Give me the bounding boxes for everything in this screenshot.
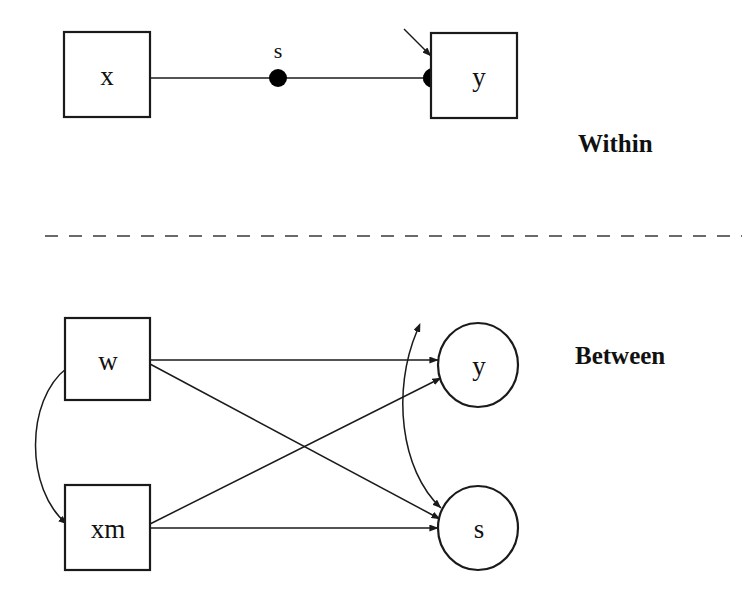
between-covariance-y-s (403, 331, 441, 508)
between-section-label: Between (575, 342, 665, 369)
between-node-s[interactable]: s (438, 486, 518, 570)
diagram-canvas: x s y Within (0, 0, 751, 596)
between-section: w xm y s Between (36, 318, 666, 570)
within-section: x s y Within (64, 29, 653, 157)
within-node-y-label: y (472, 62, 486, 92)
within-random-slope-label: s (274, 38, 283, 63)
between-covariance-w-xm (36, 368, 68, 524)
within-residual-arrow (404, 29, 431, 56)
path-diagram: x s y Within (0, 0, 751, 596)
within-section-label: Within (578, 130, 653, 157)
between-node-y-label: y (472, 351, 486, 381)
within-node-x-label: x (100, 61, 114, 91)
within-random-slope-dot[interactable] (269, 69, 287, 87)
between-node-y[interactable]: y (438, 323, 518, 407)
between-node-w[interactable]: w (65, 318, 150, 400)
between-edge-xm-to-y (150, 378, 441, 524)
between-node-xm-label: xm (91, 514, 126, 544)
between-node-xm[interactable]: xm (65, 485, 150, 570)
between-edge-w-to-s (150, 364, 440, 519)
between-node-w-label: w (98, 346, 118, 376)
within-node-x[interactable]: x (64, 32, 150, 117)
within-node-y[interactable]: y (431, 33, 517, 118)
between-node-s-label: s (474, 514, 485, 544)
